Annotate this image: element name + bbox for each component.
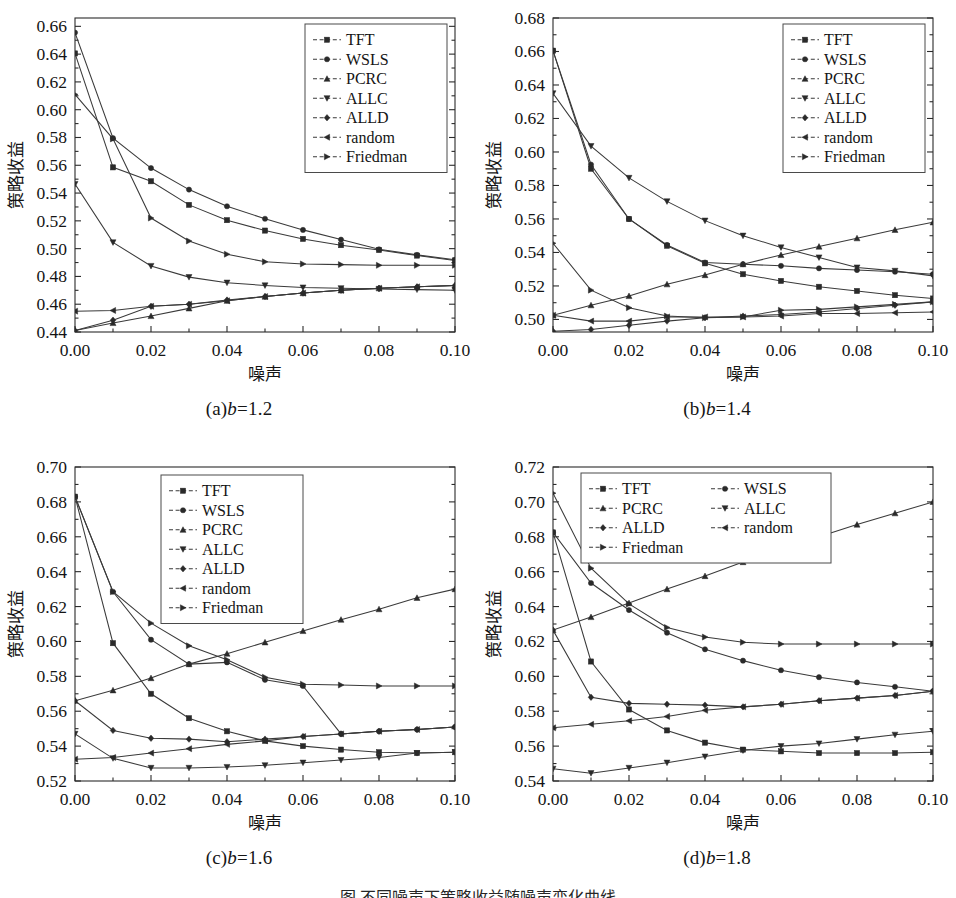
x-tick-label: 0.04 [690, 340, 721, 360]
series-marker-tft [816, 750, 821, 755]
legend-marker-wsls [722, 486, 727, 491]
series-marker-wsls [892, 684, 897, 689]
series-marker-friedman [778, 641, 784, 647]
legend-label-alld: ALLD [202, 560, 245, 577]
x-tick-label: 0.00 [538, 789, 569, 809]
legend-label-alld: ALLD [824, 109, 867, 126]
series-marker-tft [702, 740, 707, 745]
y-tick-label: 0.60 [36, 100, 67, 120]
series-marker-alld [626, 700, 632, 706]
y-tick-label: 0.52 [36, 211, 67, 231]
y-axis-title: 策略收益 [484, 590, 504, 658]
series-marker-tft [224, 729, 229, 734]
series-marker-tft [778, 278, 783, 283]
series-marker-friedman [300, 261, 306, 267]
series-marker-tft [626, 707, 631, 712]
series-marker-wsls [224, 204, 229, 209]
y-tick-label: 0.46 [36, 294, 67, 314]
legend-label-pcrc: PCRC [346, 70, 387, 87]
caption-index: (d) [683, 847, 706, 868]
series-marker-tft [854, 750, 859, 755]
legend: TFTWSLSPCRCALLCALLDrandomFriedman [783, 24, 925, 173]
legend-label-pcrc: PCRC [202, 521, 243, 538]
y-tick-label: 0.54 [36, 183, 67, 203]
figure-container: 0.440.460.480.500.520.540.560.580.600.62… [0, 0, 956, 898]
y-axis-title: 策略收益 [6, 590, 26, 658]
x-axis-title: 噪声 [726, 364, 760, 384]
legend-label-alld: ALLD [346, 109, 389, 126]
series-marker-pcrc [930, 219, 936, 225]
x-tick-label: 0.06 [288, 789, 319, 809]
legend-label-wsls: WSLS [744, 480, 787, 497]
x-tick-label: 0.10 [918, 789, 949, 809]
series-marker-friedman [414, 262, 420, 268]
y-tick-label: 0.58 [36, 127, 67, 147]
legend-marker-tft [600, 486, 605, 491]
series-marker-wsls [148, 637, 153, 642]
caption-index: (c) [206, 847, 228, 868]
legend-marker-tft [324, 37, 329, 42]
y-tick-label: 0.66 [514, 41, 545, 61]
series-marker-tft [224, 218, 229, 223]
panel-caption-c: (c)b=1.6 [0, 847, 478, 869]
series-marker-wsls [550, 530, 555, 535]
series-marker-wsls [664, 630, 669, 635]
y-tick-label: 0.54 [514, 242, 545, 262]
x-tick-label: 0.02 [614, 789, 645, 809]
series-marker-wsls [186, 187, 191, 192]
y-tick-label: 0.52 [36, 771, 67, 791]
series-marker-tft [186, 716, 191, 721]
legend-label-friedman: Friedman [824, 148, 885, 165]
legend-label-tft: TFT [824, 31, 853, 48]
legend-label-friedman: Friedman [622, 539, 683, 556]
legend-label-wsls: WSLS [202, 502, 245, 519]
legend-label-tft: TFT [622, 480, 651, 497]
legend-marker-wsls [802, 57, 807, 62]
panel-d: 0.540.560.580.600.620.640.660.680.700.72… [478, 449, 956, 898]
y-tick-label: 0.64 [36, 44, 67, 64]
series-marker-alld [664, 701, 670, 707]
series-marker-wsls [778, 263, 783, 268]
y-tick-label: 0.68 [514, 527, 545, 547]
caption-variable: b [706, 847, 716, 868]
series-marker-tft [854, 288, 859, 293]
series-marker-random [664, 713, 670, 719]
series-marker-friedman [262, 259, 268, 265]
series-marker-allc [702, 218, 708, 224]
series-marker-friedman [664, 624, 670, 630]
series-marker-friedman [414, 683, 420, 689]
y-tick-label: 0.66 [36, 527, 67, 547]
y-tick-label: 0.56 [514, 209, 545, 229]
series-marker-tft [664, 728, 669, 733]
x-tick-label: 0.02 [136, 789, 167, 809]
legend-label-friedman: Friedman [346, 148, 407, 165]
legend-label-pcrc: PCRC [622, 500, 663, 517]
legend-label-pcrc: PCRC [824, 70, 865, 87]
series-marker-friedman [892, 641, 898, 647]
y-tick-label: 0.54 [36, 736, 67, 756]
series-marker-wsls [452, 257, 457, 262]
caption-index: (b) [683, 398, 706, 419]
series-marker-friedman [376, 683, 382, 689]
series-marker-random [148, 750, 154, 756]
y-tick-label: 0.50 [36, 239, 67, 259]
x-tick-label: 0.06 [766, 789, 797, 809]
y-axis-title: 策略收益 [484, 141, 504, 209]
series-marker-wsls [338, 237, 343, 242]
series-marker-wsls [740, 658, 745, 663]
x-axis-title: 噪声 [248, 813, 282, 833]
legend-label-allc: ALLC [744, 500, 786, 517]
series-marker-tft [72, 51, 77, 56]
series-marker-friedman [740, 639, 746, 645]
series-marker-friedman [148, 215, 154, 221]
series-marker-tft [110, 641, 115, 646]
legend-box [581, 473, 831, 563]
series-marker-friedman [626, 305, 632, 311]
series-marker-tft [930, 750, 935, 755]
x-tick-label: 0.04 [212, 340, 243, 360]
series-marker-wsls [550, 48, 555, 53]
series-marker-pcrc [148, 675, 154, 681]
x-tick-label: 0.00 [60, 789, 91, 809]
series-marker-wsls [702, 260, 707, 265]
series-marker-wsls [664, 242, 669, 247]
